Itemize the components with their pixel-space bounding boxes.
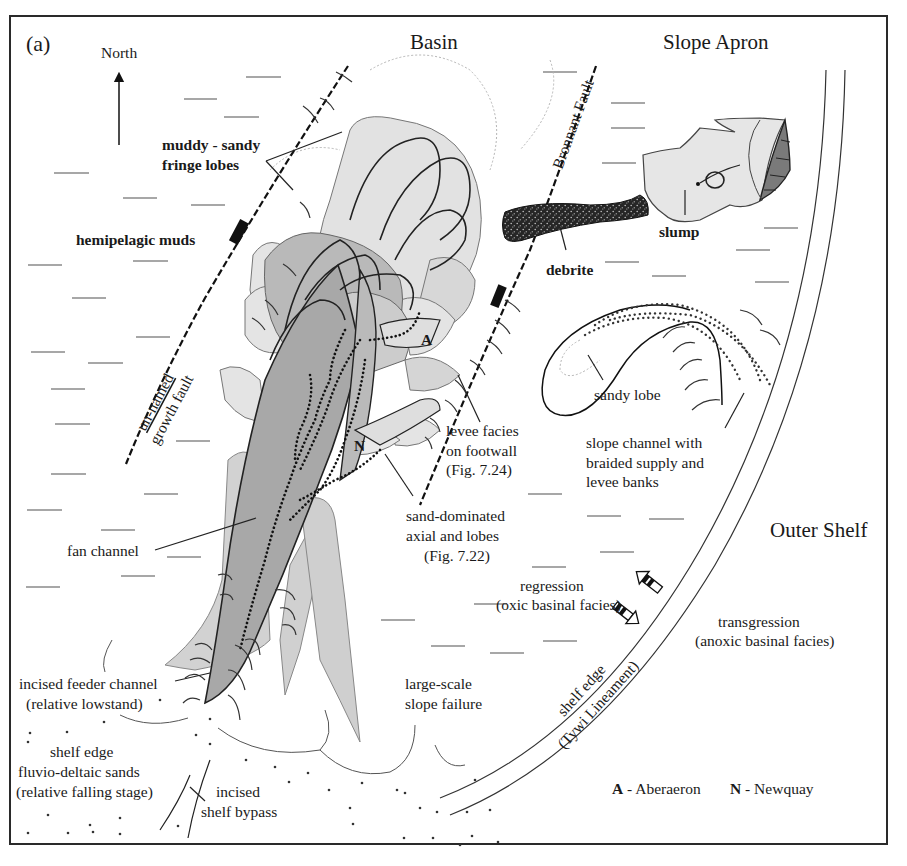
label-transgression-2: (anoxic basinal facies) <box>695 632 834 650</box>
north-label: North <box>101 44 137 61</box>
svg-text:A - Aberaeron: A - Aberaeron <box>612 780 701 797</box>
panel-label: (a) <box>26 31 50 56</box>
label-shelf-edge-sands-3: (relative falling stage) <box>16 783 153 801</box>
legend-key-n: N <box>730 780 741 797</box>
label-slope-channel-3: levee banks <box>586 473 659 490</box>
legend-key-a: A <box>612 780 624 797</box>
svg-text:N - Newquay: N - Newquay <box>730 780 814 797</box>
label-regression-2: (oxic basinal facies) <box>496 596 621 614</box>
label-sand-dominated-1: sand-dominated <box>406 507 505 524</box>
label-levee-facies-1: levee facies <box>446 422 519 439</box>
label-shelf-edge-sands-1: shelf edge <box>50 743 113 760</box>
label-levee-facies-2: on footwall <box>446 442 517 459</box>
label-slope-channel-1: slope channel with <box>586 434 702 451</box>
label-feeder-channel-2: (relative lowstand) <box>26 695 143 713</box>
region-basin: Basin <box>410 30 458 54</box>
legend-text-newquay: - Newquay <box>741 780 814 797</box>
label-sandy-lobe: sandy lobe <box>594 386 661 403</box>
region-outer-shelf: Outer Shelf <box>770 518 867 542</box>
marker-aberaeron: A <box>421 331 433 348</box>
label-debrite: debrite <box>546 261 593 278</box>
label-slope-failure-2: slope failure <box>405 695 482 712</box>
label-fringe-lobes-2: fringe lobes <box>162 156 239 173</box>
label-incised-bypass-2: shelf bypass <box>201 803 277 820</box>
label-fan-channel: fan channel <box>67 542 139 559</box>
label-sand-dominated-2: axial and lobes <box>406 527 499 544</box>
label-incised-bypass-1: incised <box>216 783 260 800</box>
label-slope-channel-2: braided supply and <box>586 454 704 471</box>
label-hemipelagic-muds: hemipelagic muds <box>76 231 195 248</box>
legend-text-aberaeron: - Aberaeron <box>623 780 701 797</box>
depositional-model-figure: A N <box>0 0 907 866</box>
label-feeder-channel-1: incised feeder channel <box>19 675 158 692</box>
label-slope-failure-1: large-scale <box>405 675 472 692</box>
label-sand-dominated-3: (Fig. 7.22) <box>424 547 490 565</box>
label-shelf-edge-sands-2: fluvio-deltaic sands <box>18 763 140 780</box>
label-transgression-1: transgression <box>718 613 800 630</box>
label-fringe-lobes-1: muddy - sandy <box>162 136 260 153</box>
region-slope-apron: Slope Apron <box>663 30 769 54</box>
label-slump: slump <box>659 223 700 240</box>
marker-newquay: N <box>354 437 365 454</box>
label-regression-1: regression <box>520 577 584 594</box>
label-levee-facies-3: (Fig. 7.24) <box>446 461 512 479</box>
